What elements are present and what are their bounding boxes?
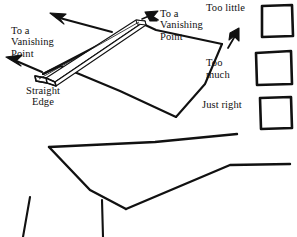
sample-box-just-right [260,97,292,129]
label-too-little: Too little [206,2,245,13]
label-straight-edge: Straight Edge [8,85,78,108]
arrow-up-left-icon [50,13,112,32]
lower-perspective-shape [49,134,290,209]
label-vanishing-point-left: To a Vanishing Point [11,25,54,59]
arrow-up-right-icon [142,11,158,21]
diagram-canvas: To a Vanishing Point To a Vanishing Poin… [0,0,297,237]
bottom-vertical-strokes [23,197,103,237]
sample-box-too-much [256,51,292,85]
arrow-up-right-pointer-icon [228,28,239,48]
label-too-much: Too much [206,57,230,80]
label-just-right: Just right [202,99,242,110]
sample-box-too-little [262,5,293,37]
label-vanishing-point-right: To a Vanishing Point [160,8,203,42]
